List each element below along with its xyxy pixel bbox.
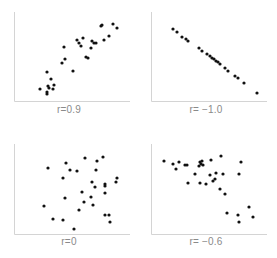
data-point [103,213,106,216]
data-point [223,66,226,69]
data-point [177,160,180,163]
data-point [68,168,71,171]
correlation-label: r=0.9 [0,104,138,115]
data-point [49,77,52,80]
data-point [236,213,239,216]
data-point [89,195,92,198]
data-point [115,176,118,179]
data-point [193,172,196,175]
data-point [100,23,103,26]
data-point [45,70,48,73]
scatter-plot [137,0,275,104]
data-point [38,87,41,90]
data-point [46,166,49,169]
data-point [89,46,92,49]
correlation-label: r= −0.6 [137,236,275,247]
data-point [77,41,80,44]
data-point [60,61,63,64]
data-point [242,81,245,84]
scatter-plot [0,128,138,238]
data-point [107,34,110,37]
data-point [86,56,89,59]
data-point [77,208,80,211]
data-point [237,220,240,223]
scatter-panel-r-neg-0-6: r= −0.6 [137,128,275,257]
data-point [61,176,64,179]
data-point [214,171,217,174]
data-point [162,159,165,162]
scatter-plot [137,128,275,238]
data-point [239,160,242,163]
data-point [108,220,111,223]
data-point [94,168,97,171]
data-point [211,179,214,182]
data-point [72,227,75,230]
data-point [198,181,201,184]
data-point [223,192,226,195]
scatter-plot [0,0,138,104]
data-point [114,180,117,183]
data-point [81,36,84,39]
data-point [225,211,228,214]
data-point [219,154,222,157]
data-point [45,90,48,93]
data-point [171,27,174,30]
data-point [236,76,239,79]
axis-lines [152,144,268,235]
data-point [218,187,221,190]
correlation-label: r= −1.0 [137,104,275,115]
data-point [197,164,200,167]
data-point [46,84,49,87]
data-point [71,69,74,72]
data-point [201,163,204,166]
data-point [208,173,211,176]
data-point [90,180,93,183]
data-point [94,41,97,44]
data-point [237,172,240,175]
data-point [51,87,54,90]
scatter-panel-r-0-9: r=0.9 [0,0,138,129]
data-point [255,91,258,94]
data-point [226,69,229,72]
data-point [101,155,104,158]
data-point [200,159,203,162]
data-point [91,203,94,206]
scatter-panel-r-neg-1-0: r= −1.0 [137,0,275,129]
data-point [115,26,118,29]
data-point [75,38,78,41]
data-point [107,213,110,216]
data-point [247,205,250,208]
data-point [185,163,188,166]
data-point [171,162,174,165]
data-point [221,172,224,175]
data-point [102,38,105,41]
data-point [61,218,64,221]
data-point [233,74,236,77]
data-point [205,52,208,55]
data-point [52,83,55,86]
data-point [111,22,114,25]
data-point [93,185,96,188]
data-point [83,156,86,159]
data-point [82,200,85,203]
data-point [200,49,203,52]
data-point [75,169,78,172]
data-point [103,184,106,187]
data-point [209,158,212,161]
data-point [175,30,178,33]
data-point [62,45,65,48]
data-point [180,35,183,38]
data-point [64,161,67,164]
data-point [186,181,189,184]
data-point [218,62,221,65]
data-point [251,215,254,218]
data-point [79,44,82,47]
correlation-label: r=0 [0,236,138,247]
data-point [197,46,200,49]
data-point [51,217,54,220]
data-point [95,159,98,162]
scatter-panel-r-0: r=0 [0,128,138,257]
data-point [63,196,66,199]
data-point [186,39,189,42]
data-point [103,191,106,194]
